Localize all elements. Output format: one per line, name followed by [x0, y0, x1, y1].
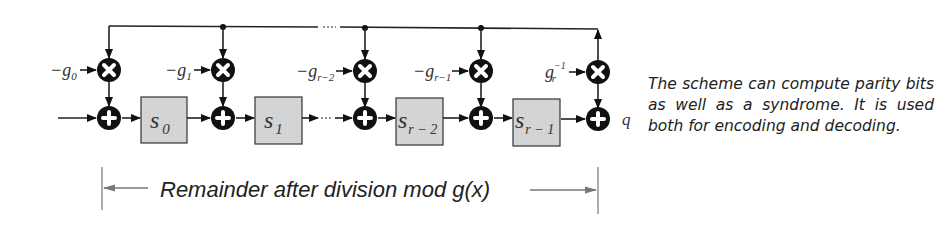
coef-g-r-1: −gr−1 [413, 61, 451, 83]
coef-g-r-inverse: g−1r [545, 60, 566, 84]
register-s-r-1: sr − 1 [513, 99, 560, 146]
add-icon [211, 106, 235, 130]
coef-g0: −g0 [50, 60, 77, 82]
coef-g1: −g1 [165, 60, 192, 82]
coef-g-r-2: −gr−2 [296, 61, 335, 83]
register-s1: s1 [255, 97, 302, 144]
feedback-arrows [109, 26, 598, 60]
add-icon [353, 106, 377, 130]
multiply-icon [469, 59, 493, 83]
feedback-bus [109, 26, 598, 29]
add-icon [469, 106, 493, 130]
add-icon [586, 107, 610, 131]
multiply-icon [353, 59, 377, 83]
remainder-annotation: Remainder after division mod g(x) [102, 167, 598, 214]
multiply-icon [586, 60, 610, 84]
add-icon [97, 106, 121, 130]
svg-text:Remainder after division mod g: Remainder after division mod g(x) [160, 177, 490, 202]
register-s0: s0 [141, 97, 187, 143]
multiply-icon [211, 58, 235, 82]
data-path-arrows [58, 118, 585, 119]
register-s-r-2: sr − 2 [396, 98, 443, 145]
output-label-q: q [622, 110, 631, 129]
multiply-icon [97, 58, 121, 82]
caption-text: The scheme can compute parity bits as we… [648, 74, 934, 137]
